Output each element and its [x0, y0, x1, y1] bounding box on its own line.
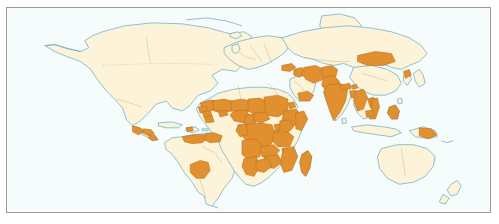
cambodia-highlight: [366, 110, 375, 117]
taiwan-land: [397, 98, 402, 104]
bhutan-highlight: [352, 84, 358, 89]
world-map-canvas[interactable]: [7, 8, 490, 212]
map-frame-border: [6, 7, 491, 213]
world-map-figure: [0, 0, 499, 224]
haiti-highlight: [186, 127, 193, 132]
sierra-leone-liberia-highlight: [204, 116, 214, 123]
caribbean-puertorico-land: [202, 129, 208, 131]
sri-lanka-land: [342, 118, 347, 124]
